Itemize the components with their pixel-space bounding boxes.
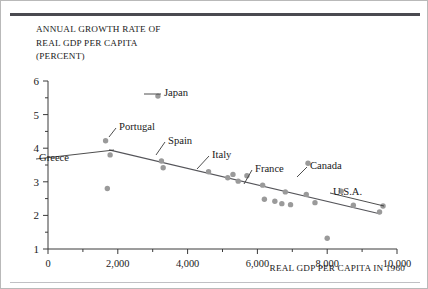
- annotation: France: [244, 163, 284, 184]
- data-point: [325, 236, 330, 241]
- data-point: [288, 202, 293, 207]
- annotation-leader-line: [109, 128, 116, 137]
- annotation: Canada: [297, 160, 342, 177]
- y-tick-label: 5: [34, 109, 40, 121]
- annotation: Portugal: [109, 121, 155, 137]
- annotation: Japan: [144, 87, 189, 98]
- annotation: Greece: [36, 150, 114, 163]
- scatter-plot: 12345602,0004,0006,0008,00010,000JapanPo…: [1, 1, 428, 289]
- annotation-label: Japan: [164, 87, 189, 98]
- x-tick-label: 6,000: [246, 258, 269, 269]
- y-tick-label: 2: [34, 209, 40, 221]
- data-point: [279, 201, 284, 206]
- annotation: Italy: [197, 149, 232, 169]
- x-tick-label: 4,000: [176, 258, 199, 269]
- data-point: [377, 209, 382, 214]
- data-point: [283, 189, 288, 194]
- annotation-label: Portugal: [119, 121, 155, 132]
- data-point: [351, 203, 356, 208]
- x-tick-label: 0: [45, 258, 50, 269]
- data-point: [312, 200, 317, 205]
- annotation: U.S.A.: [330, 186, 384, 206]
- data-point: [260, 182, 265, 187]
- y-tick-label: 6: [34, 75, 40, 87]
- data-point: [304, 192, 309, 197]
- data-point: [103, 138, 108, 143]
- y-tick-label: 1: [34, 243, 40, 255]
- data-point: [107, 152, 112, 157]
- data-point: [160, 165, 165, 170]
- data-point: [272, 199, 277, 204]
- annotation-label: Italy: [212, 149, 232, 160]
- data-point: [225, 175, 230, 180]
- data-point: [236, 178, 241, 183]
- annotation-label: Spain: [168, 135, 193, 146]
- data-point: [105, 186, 110, 191]
- annotation-leader-line: [156, 142, 165, 155]
- annotation-leader-line: [197, 156, 209, 169]
- annotation-label: France: [255, 163, 284, 174]
- annotation-leader-line: [297, 167, 307, 177]
- data-point: [262, 197, 267, 202]
- annotation-label: Greece: [39, 152, 69, 163]
- x-axis-title: REAL GDP PER CAPITA IN 1960: [270, 263, 405, 273]
- data-point: [206, 169, 211, 174]
- data-point: [230, 172, 235, 177]
- data-point: [159, 158, 164, 163]
- figure-container: ANNUAL GROWTH RATE OF REAL GDP PER CAPIT…: [0, 0, 428, 289]
- y-tick-label: 3: [34, 176, 40, 188]
- annotation-label: U.S.A.: [333, 186, 362, 197]
- x-tick-label: 2,000: [106, 258, 129, 269]
- annotation: Spain: [156, 135, 193, 155]
- annotation-label: Canada: [310, 160, 342, 171]
